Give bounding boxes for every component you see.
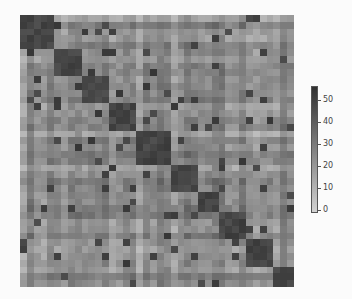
heatmap-cell	[47, 35, 54, 42]
heatmap-cell	[164, 158, 171, 165]
heatmap-cell	[273, 124, 280, 131]
heatmap-cell	[267, 212, 274, 219]
heatmap-cell	[123, 226, 130, 233]
heatmap-cell	[198, 273, 205, 280]
heatmap-cell	[178, 158, 185, 165]
heatmap-cell	[157, 69, 164, 76]
heatmap-cell	[273, 199, 280, 206]
heatmap-cell	[102, 15, 109, 22]
heatmap-cell	[260, 124, 267, 131]
heatmap-cell	[150, 29, 157, 36]
heatmap-cell	[253, 158, 260, 165]
heatmap-cell	[171, 233, 178, 240]
heatmap-cell	[123, 137, 130, 144]
heatmap-cell	[116, 178, 123, 185]
heatmap-cell	[287, 42, 294, 49]
heatmap-cell	[171, 273, 178, 280]
heatmap-cell	[205, 97, 212, 104]
heatmap-cell	[61, 239, 68, 246]
heatmap-cell	[178, 171, 185, 178]
heatmap-cell	[219, 42, 226, 49]
heatmap-cell	[287, 246, 294, 253]
heatmap-cell	[239, 212, 246, 219]
heatmap-cell	[198, 239, 205, 246]
heatmap-cell	[27, 212, 34, 219]
heatmap-cell	[88, 178, 95, 185]
heatmap-cell	[82, 15, 89, 22]
heatmap-cell	[253, 90, 260, 97]
heatmap-cell	[75, 76, 82, 83]
heatmap-cell	[130, 239, 137, 246]
heatmap-cell	[184, 29, 191, 36]
colorbar-tick: 0	[318, 205, 348, 215]
heatmap-cell	[116, 97, 123, 104]
heatmap-cell	[267, 42, 274, 49]
heatmap-cell	[95, 171, 102, 178]
heatmap-cell	[20, 205, 27, 212]
heatmap-cell	[239, 253, 246, 260]
heatmap-cell	[68, 205, 75, 212]
heatmap-cell	[157, 178, 164, 185]
heatmap-cell	[164, 56, 171, 63]
heatmap-cell	[184, 199, 191, 206]
colorbar-tick: 40	[318, 117, 348, 127]
heatmap-cell	[205, 90, 212, 97]
heatmap-cell	[225, 56, 232, 63]
heatmap-cell	[267, 69, 274, 76]
heatmap-cell	[20, 226, 27, 233]
heatmap-cell	[27, 205, 34, 212]
heatmap-cell	[34, 151, 41, 158]
heatmap-cell	[95, 49, 102, 56]
heatmap-cell	[232, 280, 239, 287]
heatmap-cell	[150, 178, 157, 185]
heatmap-cell	[75, 219, 82, 226]
heatmap-cell	[260, 97, 267, 104]
heatmap-cell	[212, 56, 219, 63]
heatmap-cell	[253, 42, 260, 49]
heatmap-cell	[116, 117, 123, 124]
heatmap-cell	[260, 205, 267, 212]
heatmap-cell	[239, 158, 246, 165]
heatmap-cell	[171, 219, 178, 226]
heatmap-cell	[164, 131, 171, 138]
heatmap-cell	[95, 15, 102, 22]
heatmap-cell	[47, 246, 54, 253]
colorbar-tick: 10	[318, 183, 348, 193]
heatmap-cell	[27, 219, 34, 226]
heatmap-cell	[212, 144, 219, 151]
heatmap-cell	[184, 178, 191, 185]
heatmap-cell	[34, 158, 41, 165]
heatmap-cell	[287, 49, 294, 56]
heatmap-cell	[34, 246, 41, 253]
heatmap-cell	[34, 69, 41, 76]
heatmap-cell	[273, 239, 280, 246]
heatmap-cell	[116, 253, 123, 260]
heatmap-cell	[109, 144, 116, 151]
heatmap-cell	[253, 253, 260, 260]
heatmap-cell	[88, 165, 95, 172]
heatmap-cell	[68, 280, 75, 287]
heatmap-cell	[253, 212, 260, 219]
heatmap-cell	[68, 246, 75, 253]
heatmap-cell	[75, 158, 82, 165]
heatmap-cell	[225, 90, 232, 97]
heatmap-cell	[184, 212, 191, 219]
heatmap-cell	[178, 199, 185, 206]
heatmap-cell	[143, 260, 150, 267]
heatmap-cell	[287, 144, 294, 151]
heatmap-cell	[102, 35, 109, 42]
heatmap-cell	[68, 273, 75, 280]
heatmap-cell	[82, 165, 89, 172]
heatmap-cell	[88, 158, 95, 165]
heatmap-cell	[273, 69, 280, 76]
heatmap-cell	[130, 151, 137, 158]
heatmap-cell	[143, 267, 150, 274]
heatmap-cell	[191, 76, 198, 83]
heatmap-cell	[20, 124, 27, 131]
heatmap-cell	[75, 117, 82, 124]
heatmap-cell	[246, 267, 253, 274]
heatmap-cell	[239, 178, 246, 185]
heatmap-cell	[82, 212, 89, 219]
heatmap-cell	[116, 226, 123, 233]
heatmap-cell	[82, 137, 89, 144]
